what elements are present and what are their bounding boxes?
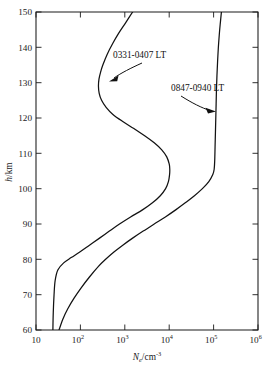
y-ticklabel-60: 60 xyxy=(23,325,33,335)
y-ticklabel-100: 100 xyxy=(18,184,32,194)
y-ticklabel-90: 90 xyxy=(23,219,33,229)
x-ticklabel-1e3-exponent: 3 xyxy=(125,333,128,340)
y-ticklabel-120: 120 xyxy=(18,113,32,123)
x-ticklabel-1e3-mantissa: 10 xyxy=(116,335,126,345)
y-ticklabel-110: 110 xyxy=(19,149,33,159)
x-ticklabel-1e5-mantissa: 10 xyxy=(205,335,215,345)
y-ticklabel-130: 130 xyxy=(18,78,32,88)
y-axis-tick-labels: 150 140 130 120 110 100 90 80 70 60 xyxy=(18,7,32,335)
x-ticklabel-1e2: 102 xyxy=(72,333,84,345)
x-ticklabel-1e6: 106 xyxy=(249,333,261,345)
electron-density-profile-chart: 150 140 130 120 110 100 90 80 70 60 xyxy=(0,0,274,371)
y-axis-label: h/km xyxy=(4,162,14,182)
figure-container: 150 140 130 120 110 100 90 80 70 60 xyxy=(0,0,274,371)
x-ticklabel-1e2-mantissa: 10 xyxy=(72,335,82,345)
annotation-day-label: 0847-0940 LT xyxy=(171,83,224,93)
x-ticklabel-1e3: 103 xyxy=(116,333,128,345)
y-ticklabel-70: 70 xyxy=(23,290,33,300)
x-ticklabel-1e5: 105 xyxy=(205,333,217,345)
x-ticklabel-1e1: 10 xyxy=(31,335,41,345)
x-ticklabel-1e5-exponent: 5 xyxy=(214,333,217,340)
y-axis-label-unit: /km xyxy=(4,162,14,177)
x-axis-label-unit: /cm xyxy=(142,352,157,362)
x-axis-tick-labels: 10 102 103 104 105 106 xyxy=(31,333,261,345)
x-ticklabel-1e4-mantissa: 10 xyxy=(161,335,171,345)
x-axis-label-exponent: -3 xyxy=(156,350,161,357)
x-axis-label: Ne/cm-3 xyxy=(132,350,162,363)
annotation-night: 0331-0407 LT xyxy=(109,50,166,82)
x-ticklabel-1e4: 104 xyxy=(161,333,173,345)
x-ticklabel-1e6-exponent: 6 xyxy=(259,333,262,340)
x-ticklabel-1e4-exponent: 4 xyxy=(170,333,173,340)
y-ticklabel-80: 80 xyxy=(23,255,33,265)
annotation-day-arrowhead xyxy=(206,108,217,114)
annotation-day-arrow xyxy=(181,96,210,111)
x-ticklabel-1e1-mantissa: 10 xyxy=(31,335,41,345)
y-axis-label-group: h/km xyxy=(4,162,14,182)
x-ticklabel-1e2-exponent: 2 xyxy=(81,333,84,340)
y-ticklabel-150: 150 xyxy=(18,7,32,17)
annotation-night-label: 0331-0407 LT xyxy=(113,50,166,60)
y-ticklabel-140: 140 xyxy=(18,43,32,53)
x-ticklabel-1e6-mantissa: 10 xyxy=(249,335,259,345)
